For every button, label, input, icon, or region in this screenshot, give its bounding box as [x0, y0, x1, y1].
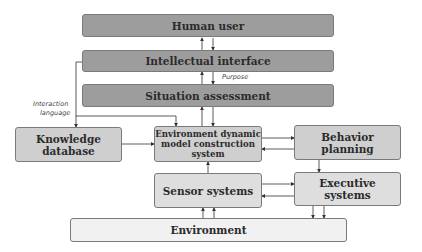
environment-model-node: Environment dynamic model construction s… [154, 126, 262, 162]
intellectual-interface-node: Intellectual interface [82, 50, 334, 72]
environment-model-label-line3: system [191, 149, 224, 159]
environment-node: Environment [70, 218, 347, 242]
environment-model-label-line2: model construction [161, 139, 255, 149]
interaction-label-line2: language [40, 109, 70, 117]
sensor-systems-node: Sensor systems [154, 173, 262, 208]
behavior-planning-node: Behavior planning [294, 125, 401, 160]
knowledge-database-node: Knowledge database [15, 127, 122, 162]
executive-systems-node: Executive systems [294, 172, 401, 206]
situation-assessment-node: Situation assessment [82, 84, 334, 107]
purpose-label: Purpose [222, 73, 248, 81]
interaction-label-line1: Interaction [33, 100, 68, 108]
human-user-node: Human user [82, 14, 334, 37]
environment-model-label-line1: Environment dynamic [155, 129, 261, 139]
